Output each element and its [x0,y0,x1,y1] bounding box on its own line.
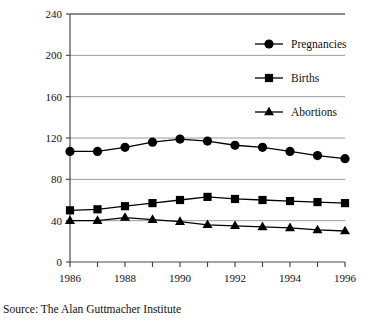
y-tick-label-200: 200 [46,49,63,61]
y-tick-label-0: 0 [57,256,63,268]
y-tick-label-160: 160 [46,91,63,103]
y-tick-label-240: 240 [46,8,63,20]
data-point-pregnancies-1996 [340,154,349,163]
line-chart: 04080120160200240 1986198819901992199419… [0,0,368,326]
legend-marker-circle-icon [264,39,273,48]
data-point-pregnancies-1995 [313,151,322,160]
x-tick-label-1992: 1992 [224,272,246,284]
legend-label-births: Births [291,72,320,84]
data-point-births-1994 [286,197,294,205]
x-tick-label-1994: 1994 [279,272,302,284]
x-tick-label-1990: 1990 [169,272,192,284]
data-point-pregnancies-1992 [230,141,239,150]
data-point-births-1993 [258,196,266,204]
data-point-pregnancies-1993 [258,143,267,152]
data-point-pregnancies-1994 [285,147,294,156]
data-point-births-1991 [203,193,211,201]
legend-marker-square-icon [265,74,273,82]
data-point-pregnancies-1990 [175,134,184,143]
data-point-births-1989 [148,199,156,207]
x-tick-label-1996: 1996 [334,272,357,284]
data-point-pregnancies-1988 [120,143,129,152]
data-point-births-1992 [231,195,239,203]
legend-label-pregnancies: Pregnancies [291,38,347,51]
data-point-pregnancies-1991 [203,137,212,146]
data-point-births-1990 [176,196,184,204]
source-caption: Source: The Alan Guttmacher Institute [3,303,181,315]
data-point-pregnancies-1987 [93,147,102,156]
x-tick-label-1988: 1988 [114,272,137,284]
x-tick-label-1986: 1986 [59,272,82,284]
y-tick-label-120: 120 [46,132,63,144]
data-point-births-1986 [66,206,74,214]
y-tick-label-80: 80 [51,173,63,185]
data-point-pregnancies-1989 [148,138,157,147]
legend-label-abortions: Abortions [291,106,338,118]
y-tick-label-40: 40 [51,215,63,227]
data-point-pregnancies-1986 [65,147,74,156]
data-point-births-1996 [341,199,349,207]
data-point-births-1987 [93,205,101,213]
chart-figure: Rate per 1,000 women 15–19 0408012016020… [0,0,368,326]
data-point-births-1988 [121,202,129,210]
data-point-births-1995 [313,198,321,206]
